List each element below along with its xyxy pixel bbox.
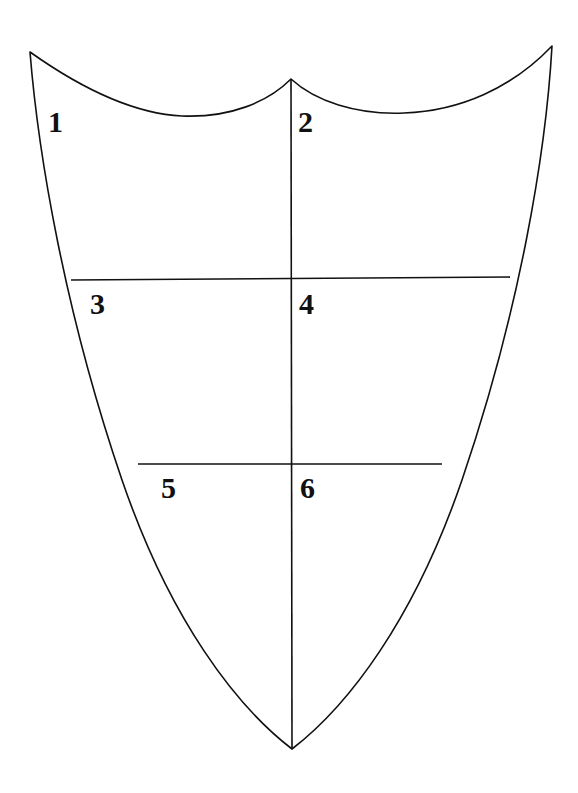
section-label-2: 2 xyxy=(298,105,313,138)
section-label-5: 5 xyxy=(161,471,176,504)
shield-diagram: 1 2 3 4 5 6 xyxy=(0,0,578,793)
section-label-4: 4 xyxy=(299,287,314,320)
section-label-6: 6 xyxy=(300,471,315,504)
section-label-3: 3 xyxy=(90,287,105,320)
pale-divider-line xyxy=(291,79,292,749)
shield-outline-svg: 1 2 3 4 5 6 xyxy=(0,0,578,793)
section-label-1: 1 xyxy=(48,105,63,138)
